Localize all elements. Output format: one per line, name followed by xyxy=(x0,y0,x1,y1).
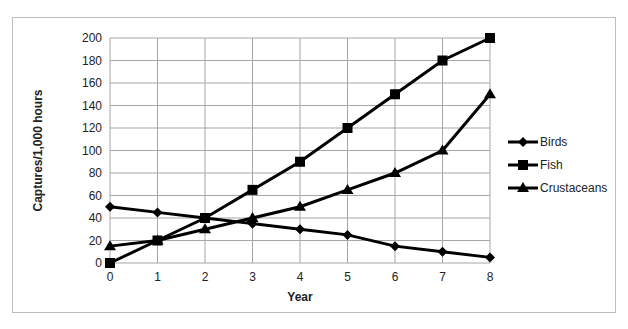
x-axis-title: Year xyxy=(287,290,313,304)
x-tick-label: 6 xyxy=(392,270,399,284)
x-tick-label: 5 xyxy=(344,270,351,284)
y-tick-label: 60 xyxy=(89,189,103,203)
y-tick-label: 80 xyxy=(89,166,103,180)
diamond-marker-icon xyxy=(508,135,538,149)
legend-item-fish: Fish xyxy=(508,153,607,176)
y-tick-label: 160 xyxy=(82,76,102,90)
y-tick-label: 200 xyxy=(82,31,102,45)
legend-label: Birds xyxy=(540,135,567,149)
y-axis-title: Captures/1,000 hours xyxy=(31,89,45,211)
legend-label: Fish xyxy=(540,158,563,172)
y-tick-label: 100 xyxy=(82,144,102,158)
x-tick-label: 1 xyxy=(154,270,161,284)
x-tick-label: 8 xyxy=(487,270,494,284)
y-tick-label: 120 xyxy=(82,121,102,135)
square-marker-icon xyxy=(508,158,538,172)
legend-label: Crustaceans xyxy=(540,181,607,195)
triangle-marker-icon xyxy=(508,181,538,195)
x-tick-label: 2 xyxy=(202,270,209,284)
y-tick-label: 0 xyxy=(95,256,102,270)
y-tick-label: 180 xyxy=(82,54,102,68)
x-tick-label: 4 xyxy=(297,270,304,284)
y-tick-label: 140 xyxy=(82,99,102,113)
x-tick-label: 0 xyxy=(107,270,114,284)
chart-legend: BirdsFishCrustaceans xyxy=(508,130,607,199)
legend-item-crustaceans: Crustaceans xyxy=(508,176,607,199)
x-tick-label: 3 xyxy=(249,270,256,284)
legend-item-birds: Birds xyxy=(508,130,607,153)
y-tick-label: 40 xyxy=(89,211,103,225)
x-tick-label: 7 xyxy=(439,270,446,284)
y-tick-label: 20 xyxy=(89,234,103,248)
